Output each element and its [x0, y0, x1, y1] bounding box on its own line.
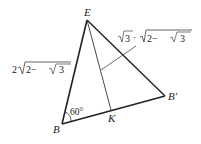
multiply-dot: · — [133, 32, 136, 43]
label-E: E — [83, 6, 91, 18]
inner-root-3: 3 — [59, 64, 64, 75]
geometry-diagram: E B B′ K 60° 2 2− 3 3 · 2− 3 — [0, 0, 201, 144]
label-B: B — [53, 123, 60, 135]
side-EBprime — [87, 20, 165, 96]
inner-root-3-2: 3 — [180, 33, 185, 44]
side-EB-length-label: 2 2− 3 — [12, 62, 71, 75]
inner-2-minus: 2− — [26, 64, 37, 75]
label-Bprime: B′ — [168, 90, 178, 102]
segment-EK-length-label: 3 · 2− 3 — [118, 30, 192, 44]
coef-2: 2 — [12, 64, 17, 75]
angle-label-60: 60° — [70, 107, 84, 117]
leader-line — [101, 46, 136, 70]
inner-2-minus-2: 2− — [147, 33, 158, 44]
label-K: K — [107, 112, 116, 124]
root-3: 3 — [125, 33, 130, 44]
segment-EK — [87, 20, 111, 110]
